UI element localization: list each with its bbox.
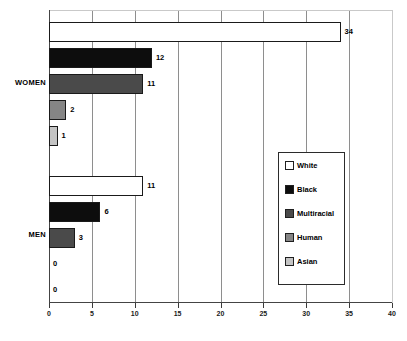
legend-swatch-white-icon (285, 161, 294, 170)
bar-value-women-human: 2 (70, 106, 74, 114)
tick-label-5: 5 (90, 310, 94, 317)
tick-30 (306, 303, 307, 308)
bar-men-multiracial (49, 228, 75, 248)
tick-40 (392, 303, 393, 308)
tick-5 (92, 303, 93, 308)
bar-men-white (49, 176, 143, 196)
bar-value-women-white: 34 (345, 28, 353, 36)
legend-label-asian: Asian (297, 257, 317, 266)
legend-swatch-multiracial-icon (285, 209, 294, 218)
tick-0 (49, 303, 50, 308)
tick-35 (349, 303, 350, 308)
bar-value-women-multiracial: 11 (147, 80, 155, 88)
legend-swatch-human-icon (285, 233, 294, 242)
legend: WhiteBlackMultiracialHumanAsian (278, 152, 345, 285)
tick-20 (221, 303, 222, 308)
legend-label-black: Black (297, 185, 317, 194)
bar-women-asian (49, 126, 58, 146)
tick-label-15: 15 (174, 310, 182, 317)
legend-item-asian[interactable]: Asian (285, 257, 317, 266)
legend-label-multiracial: Multiracial (297, 209, 334, 218)
tick-label-30: 30 (302, 310, 310, 317)
legend-swatch-asian-icon (285, 257, 294, 266)
legend-label-human: Human (297, 233, 322, 242)
bar-women-multiracial (49, 74, 143, 94)
tick-25 (263, 303, 264, 308)
bar-women-white (49, 22, 341, 42)
caption-artifact (47, 330, 357, 339)
tick-15 (178, 303, 179, 308)
bar-women-black (49, 48, 152, 68)
legend-item-multiracial[interactable]: Multiracial (285, 209, 334, 218)
bar-men-black (49, 202, 100, 222)
legend-swatch-black-icon (285, 185, 294, 194)
bar-chart: 0510152025303540 WOMEN MEN 3412112111630… (0, 0, 407, 341)
bar-women-human (49, 100, 66, 120)
tick-label-0: 0 (47, 310, 51, 317)
legend-item-black[interactable]: Black (285, 185, 317, 194)
bar-value-men-multiracial: 3 (79, 234, 83, 242)
bar-value-men-human: 0 (53, 260, 57, 268)
bar-value-women-asian: 1 (62, 132, 66, 140)
legend-item-white[interactable]: White (285, 161, 317, 170)
tick-label-10: 10 (131, 310, 139, 317)
tick-10 (135, 303, 136, 308)
tick-label-25: 25 (259, 310, 267, 317)
bar-value-women-black: 12 (156, 54, 164, 62)
legend-label-white: White (297, 161, 317, 170)
tick-label-35: 35 (345, 310, 353, 317)
tick-label-20: 20 (217, 310, 225, 317)
legend-item-human[interactable]: Human (285, 233, 322, 242)
bar-value-men-white: 11 (147, 182, 155, 190)
group-label-women: WOMEN (2, 78, 46, 87)
group-label-men: MEN (2, 230, 46, 239)
bar-value-men-black: 6 (104, 208, 108, 216)
bar-value-men-asian: 0 (53, 286, 57, 294)
tick-label-40: 40 (388, 310, 396, 317)
